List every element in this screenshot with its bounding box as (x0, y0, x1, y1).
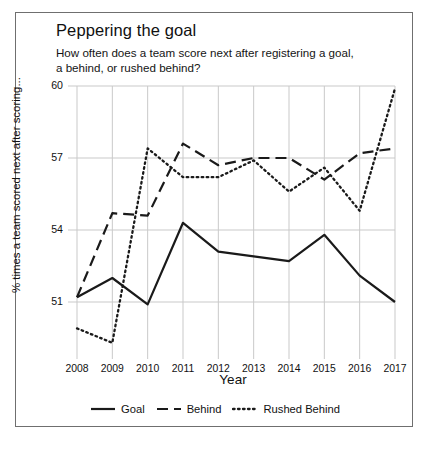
y-axis-title-text: % times a team scored next after scoring… (10, 83, 22, 293)
x-axis-title: Year (16, 372, 414, 387)
x-tick-label: 2010 (131, 363, 165, 374)
y-tick-label: 57 (37, 151, 63, 163)
x-tick-label: 2012 (201, 363, 235, 374)
y-axis-title: % times a team scored next after scoring… (10, 0, 26, 85)
legend-item-goal[interactable]: Goal (90, 403, 145, 415)
x-axis-title-text: Year (219, 372, 246, 387)
legend-swatch-dotted-icon (232, 404, 258, 414)
legend-label: Behind (187, 403, 222, 415)
chart-title-block: Peppering the goal How often does a team… (56, 21, 396, 76)
x-tick-label: 2009 (95, 363, 129, 374)
y-tick-label: 51 (37, 295, 63, 307)
legend-item-rushed-behind[interactable]: Rushed Behind (232, 403, 340, 415)
x-tick-label: 2014 (272, 363, 306, 374)
chart-plot-area: Peppering the goal How often does a team… (16, 13, 414, 428)
legend-item-behind[interactable]: Behind (156, 403, 222, 415)
x-tick-label: 2016 (343, 363, 377, 374)
chart-frame: Peppering the goal How often does a team… (15, 12, 413, 427)
x-tick-label: 2015 (307, 363, 341, 374)
x-tick-label: 2008 (60, 363, 94, 374)
series-line-goal (77, 223, 395, 305)
chart-subtitle: How often does a team score next after r… (56, 46, 356, 76)
legend-swatch-dashed-icon (156, 404, 182, 414)
legend-label: Rushed Behind (263, 403, 340, 415)
x-tick-label: 2017 (378, 363, 412, 374)
y-tick-label: 54 (37, 223, 63, 235)
chart-title: Peppering the goal (56, 21, 396, 40)
series-line-behind (77, 144, 395, 298)
legend-label: Goal (121, 403, 145, 415)
series-line-rushed-behind (77, 88, 395, 342)
x-tick-label: 2011 (166, 363, 200, 374)
legend-swatch-solid-icon (90, 404, 116, 414)
y-tick-label: 60 (37, 79, 63, 91)
x-tick-label: 2013 (237, 363, 271, 374)
chart-legend: GoalBehindRushed Behind (16, 403, 414, 415)
